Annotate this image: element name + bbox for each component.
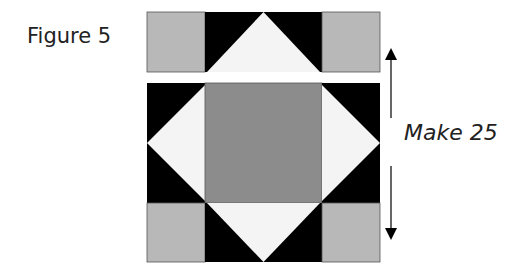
center-square bbox=[205, 83, 322, 203]
quilt-diagram bbox=[0, 0, 525, 272]
main-block-unit bbox=[147, 83, 380, 262]
light-gray-square bbox=[322, 12, 380, 72]
light-gray-square bbox=[322, 203, 380, 262]
arrow-up-icon bbox=[385, 48, 397, 60]
light-gray-square bbox=[147, 12, 205, 72]
height-arrow bbox=[385, 48, 397, 240]
light-gray-square bbox=[147, 203, 205, 262]
arrow-down-icon bbox=[385, 228, 397, 240]
top-row-unit bbox=[147, 12, 380, 72]
